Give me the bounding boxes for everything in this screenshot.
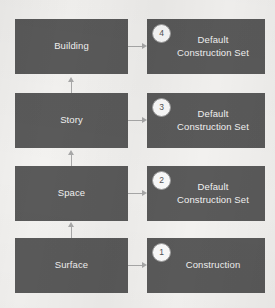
arrow-surface-to-space-head	[68, 222, 74, 227]
node-surface-construction-label: Construction	[168, 259, 245, 272]
badge-4: 4	[152, 24, 171, 43]
arrow-space-to-story-line	[71, 155, 72, 166]
node-surface[interactable]: Surface	[15, 238, 128, 293]
diagram-canvas: Building Story Space Surface 4 Default C…	[0, 0, 275, 308]
node-building-construction-set[interactable]: 4 Default Construction Set	[147, 19, 265, 74]
node-surface-label: Surface	[55, 259, 88, 272]
node-surface-construction[interactable]: 1 Construction	[147, 238, 265, 293]
badge-2: 2	[152, 171, 171, 190]
node-building-label: Building	[54, 40, 89, 53]
node-space-label: Space	[58, 187, 85, 200]
arrow-space-to-set-line	[128, 193, 143, 194]
arrow-surface-to-space-line	[71, 227, 72, 238]
node-story-construction-set-label: Default Construction Set	[159, 108, 253, 133]
arrow-space-to-story-head	[68, 150, 74, 155]
arrow-story-to-building-head	[68, 77, 74, 82]
node-space-construction-set[interactable]: 2 Default Construction Set	[147, 166, 265, 221]
node-building-construction-set-label: Default Construction Set	[159, 34, 253, 59]
arrow-story-to-building-line	[71, 82, 72, 93]
arrow-story-to-set-line	[128, 120, 143, 121]
node-story-label: Story	[60, 114, 83, 127]
arrow-building-to-set-line	[128, 46, 143, 47]
arrow-surface-to-construction-line	[128, 265, 143, 266]
node-story[interactable]: Story	[15, 93, 128, 148]
badge-3: 3	[152, 98, 171, 117]
node-space[interactable]: Space	[15, 166, 128, 221]
node-building[interactable]: Building	[15, 19, 128, 74]
node-story-construction-set[interactable]: 3 Default Construction Set	[147, 93, 265, 148]
node-space-construction-set-label: Default Construction Set	[159, 181, 253, 206]
badge-1: 1	[152, 243, 171, 262]
